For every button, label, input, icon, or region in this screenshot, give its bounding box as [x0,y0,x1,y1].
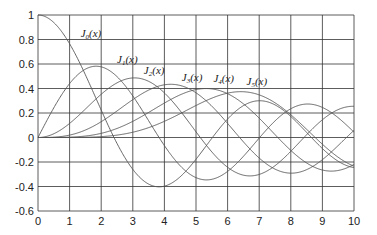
grid [38,15,354,211]
x-tick-label: 7 [256,215,262,227]
series-label: J1(x) [117,53,138,67]
x-tick-label: 5 [193,215,199,227]
y-tick-label: 1 [28,9,34,21]
x-tick-label: 3 [130,215,136,227]
x-tick-label: 2 [98,215,104,227]
series-label: J0(x) [81,27,102,41]
series-labels: J0(x)J1(x)J2(x)J3(x)J4(x)J5(x) [81,27,268,89]
y-tick-label: 0 [28,132,34,144]
x-tick-label: 4 [161,215,167,227]
bessel-chart: J0(x)J1(x)J2(x)J3(x)J4(x)J5(x) 012345678… [0,0,377,235]
x-tick-label: 0 [35,215,41,227]
y-tick-label: -0.2 [15,156,34,168]
x-tick-label: 6 [225,215,231,227]
y-tick-label: -0.6 [15,205,34,217]
x-tick-label: 10 [348,215,360,227]
series-label: J5(x) [247,75,268,89]
y-tick-label: 0.6 [19,58,34,70]
y-tick-label: 0.8 [19,34,34,46]
series-label: J2(x) [144,64,165,78]
x-tick-label: 1 [67,215,73,227]
series-label: J3(x) [182,71,203,85]
y-tick-label: -0.4 [15,181,34,193]
y-tick-label: 0.4 [19,83,34,95]
y-tick-label: 0.2 [19,107,34,119]
series-label: J4(x) [213,72,234,86]
x-tick-label: 9 [319,215,325,227]
tick-labels: 01234567891010.80.60.40.20-0.2-0.4-0.6 [15,9,360,227]
x-tick-label: 8 [288,215,294,227]
